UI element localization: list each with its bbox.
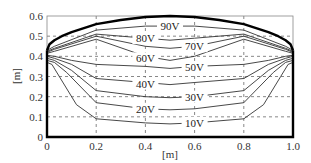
x-axis-label: [m] — [162, 148, 178, 160]
contour-20V — [47, 60, 293, 109]
x-tick-label: 1.0 — [286, 140, 300, 152]
contour-label-90V: 90V — [161, 20, 180, 32]
y-tick-label: 0.3 — [29, 71, 43, 83]
equipotential-contour-chart: 90V80V70V60V50V40V30V20V10V 00.20.40.60.… — [0, 0, 311, 163]
y-tick-label: 0 — [38, 131, 44, 143]
contour-label-80V: 80V — [136, 32, 155, 44]
y-tick-label: 0.4 — [29, 50, 43, 62]
y-tick-label: 0.6 — [29, 10, 43, 22]
x-tick-label: 0.2 — [89, 140, 103, 152]
contour-60V — [47, 39, 293, 60]
x-tick-label: 0 — [44, 140, 50, 152]
y-tick-label: 0.5 — [29, 30, 43, 42]
contour-label-60V: 60V — [136, 52, 155, 64]
x-tick-label: 0.8 — [237, 140, 251, 152]
contour-30V — [47, 58, 293, 97]
contour-lines — [47, 26, 293, 124]
contour-label-30V: 30V — [185, 91, 204, 103]
contour-label-40V: 40V — [136, 78, 155, 90]
contour-50V — [47, 55, 293, 68]
y-axis-label: [m] — [10, 68, 22, 84]
grid-lines — [47, 16, 293, 137]
y-tick-label: 0.1 — [29, 111, 43, 123]
x-tick-label: 0.6 — [188, 140, 202, 152]
y-axis-ticks: 00.10.20.30.40.50.6 — [29, 10, 43, 143]
x-tick-label: 0.4 — [139, 140, 153, 152]
contour-label-70V: 70V — [185, 40, 204, 52]
y-tick-label: 0.2 — [29, 91, 43, 103]
contour-label-20V: 20V — [136, 103, 155, 115]
contour-label-50V: 50V — [185, 61, 204, 73]
contour-label-10V: 10V — [185, 117, 204, 129]
